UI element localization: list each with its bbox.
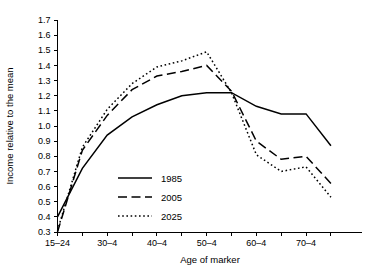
x-axis-tick-label: 50–4 (197, 238, 217, 248)
x-axis-title: Age of marker (180, 254, 240, 265)
y-axis-tick-label: 1.7 (38, 15, 51, 25)
y-axis-tick-label: 0.5 (38, 197, 51, 207)
x-axis-tick-label: 40–4 (147, 238, 167, 248)
x-axis-tick-label: 60–4 (246, 238, 266, 248)
y-axis-tick-label: 0.8 (38, 151, 51, 161)
x-axis-tick-labels: 15–2430–440–450–460–470–4 (45, 238, 316, 248)
y-axis-tick-label: 1.2 (38, 91, 51, 101)
y-axis-tick-label: 0.6 (38, 182, 51, 192)
y-axis-tick-label: 1.3 (38, 76, 51, 86)
x-axis-tick-label: 30–4 (97, 238, 117, 248)
income-by-age-chart: 0.30.40.50.60.70.80.91.01.11.21.31.41.51… (0, 0, 378, 278)
legend-label-1985: 1985 (161, 173, 182, 184)
y-axis-tick-label: 0.3 (38, 227, 51, 237)
legend-label-2025: 2025 (161, 211, 182, 222)
legend-label-2005: 2005 (161, 192, 182, 203)
series-line-1985 (58, 93, 331, 217)
y-axis-tick-label: 1.6 (38, 30, 51, 40)
y-axis-tick-label: 1.1 (38, 106, 51, 116)
y-axis-tick-label: 1.4 (38, 61, 51, 71)
chart-canvas: 0.30.40.50.60.70.80.91.01.11.21.31.41.51… (0, 0, 378, 278)
y-axis-tick-labels: 0.30.40.50.60.70.80.91.01.11.21.31.41.51… (38, 15, 51, 237)
series-line-2025 (58, 52, 331, 231)
y-axis: 0.30.40.50.60.70.80.91.01.11.21.31.41.51… (4, 15, 58, 237)
x-axis-tick-label: 70–4 (296, 238, 316, 248)
series-line-2005 (58, 65, 331, 232)
x-axis: 15–2430–440–450–460–470–4 Age of marker (45, 232, 362, 265)
x-axis-tick-label: 15–24 (45, 238, 70, 248)
y-axis-title: Income relative to the mean (4, 67, 15, 184)
data-series-group (58, 52, 331, 232)
y-axis-tick-label: 1.5 (38, 45, 51, 55)
y-axis-tick-label: 0.4 (38, 212, 51, 222)
y-axis-tick-label: 1.0 (38, 121, 51, 131)
y-axis-ticks (54, 20, 58, 232)
chart-legend: 198520052025 (118, 173, 182, 222)
y-axis-tick-label: 0.9 (38, 136, 51, 146)
y-axis-tick-label: 0.7 (38, 167, 51, 177)
